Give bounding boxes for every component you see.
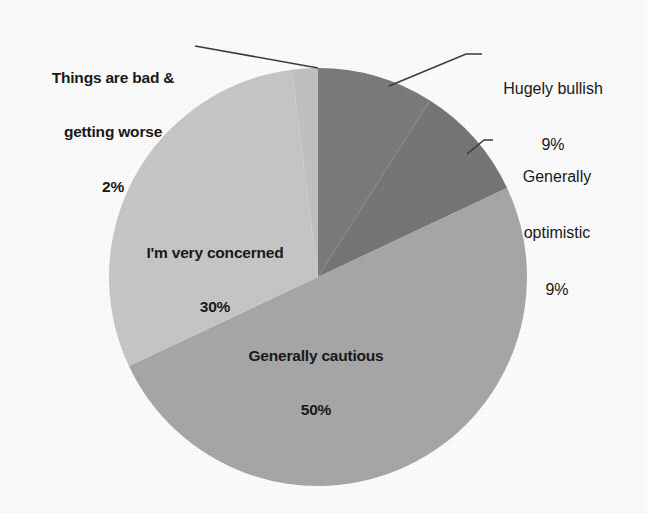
slice-label-percent: 2% [18, 178, 208, 196]
slice-label-text-line2: getting worse [18, 123, 208, 141]
slice-label-text-line1: Things are bad & [18, 69, 208, 87]
slice-label-text-line2: optimistic [489, 224, 625, 243]
slice-label-percent: 9% [489, 281, 625, 300]
slice-label-generally-cautious: Generally cautious 50% [216, 310, 416, 456]
slice-label-text-line1: I'm very concerned [112, 244, 318, 262]
slice-label-percent: 50% [216, 401, 416, 419]
slice-label-generally-optimistic: Generally optimistic 9% [489, 130, 625, 338]
slice-label-things-are-bad: Things are bad & getting worse 2% [18, 32, 208, 233]
slice-label-text-line1: Generally cautious [216, 347, 416, 365]
slice-label-text-line1: Generally [489, 168, 625, 187]
pie-chart-figure: Things are bad & getting worse 2% I'm ve… [0, 0, 647, 513]
leader-line-things-are-bad [195, 46, 318, 68]
slice-label-text-line1: Hugely bullish [478, 80, 628, 99]
leader-line-hugely-bullish [389, 54, 482, 86]
